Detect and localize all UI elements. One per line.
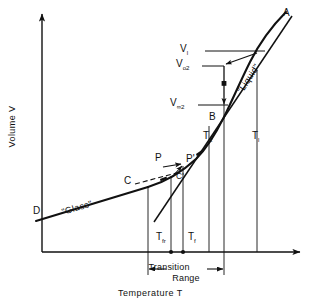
liquid-branch [148, 12, 286, 187]
t-f-subscript: f [194, 237, 196, 244]
v-l-label: Vl [180, 44, 188, 56]
liquid-extrapolation-line [154, 16, 292, 222]
t-fr-label: Tfr [156, 232, 166, 244]
point-p-label: P [155, 153, 162, 163]
v-o2-label: Vo2 [176, 59, 190, 71]
t-fr-axis-dot [169, 250, 173, 254]
t-l-subscript: l [258, 136, 259, 143]
transition-range-line1: Transition [148, 263, 189, 272]
t-fr-subscript: fr [162, 237, 166, 244]
v-inf2-base: V [170, 97, 177, 108]
v-l-base: V [180, 43, 187, 54]
v-inf2-subscript: ∞2 [177, 103, 185, 110]
point-c-label: C [124, 176, 131, 186]
t-f-axis-dot [181, 250, 185, 254]
point-p-prime-label: P' [186, 154, 195, 164]
volume-level-lines [198, 51, 265, 105]
point-b-label: B [209, 112, 216, 122]
relaxation-midpoint-marker [222, 81, 227, 86]
y-axis-label: Volume V [8, 91, 17, 163]
volume-temperature-diagram: Volume V Temperature T "Glass" "Liquid" … [0, 0, 309, 303]
t-f-label: Tf [188, 232, 196, 244]
main-curve-group [36, 12, 286, 221]
t-2-subscript: 2 [209, 136, 212, 143]
point-a-label: A [283, 8, 290, 18]
v-o2-base: V [176, 58, 183, 69]
v-inf2-label: V∞2 [170, 98, 185, 110]
dashed-extrapolation-group [135, 172, 180, 184]
temperature-drop-lines [148, 70, 257, 252]
point-c-prime-label: C' [176, 172, 184, 181]
t-2-label: T2 [203, 131, 213, 143]
liquid-extrapolation-group [154, 16, 292, 222]
p-to-pprime-arrow [163, 164, 181, 167]
v-l-subscript: l [187, 49, 188, 56]
v-o2-subscript: o2 [183, 64, 190, 71]
t-l-label: Tl [252, 131, 259, 143]
x-axis-label: Temperature T [118, 289, 183, 298]
glass-dashed-extrapolation [135, 172, 180, 184]
transition-range-line2: Range [172, 274, 200, 283]
point-d-label: D [33, 206, 40, 216]
